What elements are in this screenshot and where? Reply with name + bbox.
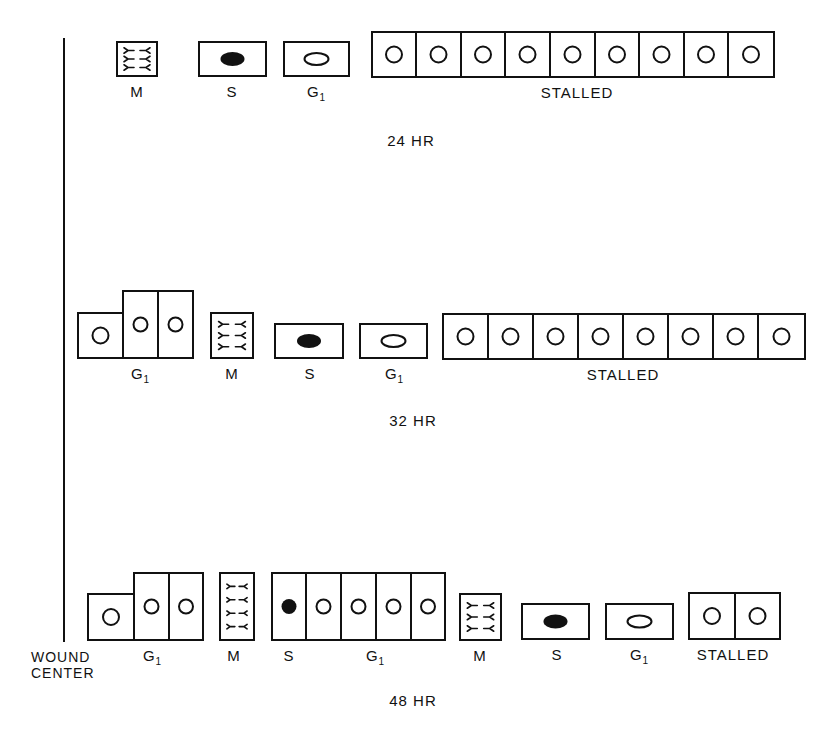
phase-label: S [551,647,562,663]
cell-round [88,594,134,640]
cell-round [595,32,639,77]
phase-label: S [304,366,315,382]
cell-mitosis-horizontal [117,42,157,76]
cell-round [713,314,758,359]
cell-round-small [411,573,445,640]
phase-label: S [283,648,294,664]
cell-round-small [134,573,169,640]
wound-label-line1: WOUND [31,649,95,665]
phase-label: G1 [630,647,648,669]
cell-round [416,32,461,77]
phase-label-subscript: 1 [144,374,150,385]
cell-round-small [376,573,411,640]
cell-round [461,32,505,77]
wound-center-label: WOUND CENTER [31,649,95,681]
cell-round [505,32,550,77]
cell-round [735,593,780,639]
cell-round [684,32,728,77]
phase-label: STALLED [587,367,660,383]
time-point-label: 48 HR [389,692,437,709]
cell-round [488,314,533,359]
cell-round [758,314,805,359]
cell-round [578,314,623,359]
dna-synthesis-nucleus-icon [297,334,321,348]
cell-mitosis-horizontal [211,313,253,358]
phase-label-subscript: 1 [320,92,326,103]
cell-g1-oval [360,324,427,358]
cell-round [550,32,595,77]
cell-cycle-diagram: MSG1STALLED24 HRG1MSG1STALLED32 HRG1MSG1… [0,0,833,743]
cell-round [639,32,684,77]
cell-round-small [306,573,341,640]
cell-round-small [169,573,203,640]
diagram-canvas [0,0,833,743]
cell-mitosis-horizontal [460,594,501,640]
dna-synthesis-nucleus-icon [221,52,245,66]
cell-g1-oval [284,42,349,76]
time-point-label: 32 HR [389,412,437,429]
wound-label-line2: CENTER [31,665,95,681]
cell-round-small [123,291,158,358]
phase-label: M [225,366,239,382]
phase-label: S [226,84,237,100]
phase-label: STALLED [697,647,770,663]
phase-label: G1 [131,366,149,388]
phase-label-subscript: 1 [379,656,385,667]
phase-label: STALLED [541,85,614,101]
cell-round-small [341,573,376,640]
phase-label: G1 [366,648,384,670]
dna-synthesis-nucleus-icon [282,599,297,614]
phase-label: M [473,648,487,664]
cell-round [623,314,668,359]
phase-label: G1 [385,366,403,388]
phase-label: M [130,84,144,100]
dna-synthesis-nucleus-icon [544,615,568,629]
cell-round [668,314,713,359]
cell-round [372,32,416,77]
cell-mitosis-vertical [220,573,254,640]
cell-g1-oval [606,604,673,639]
cell-round [533,314,578,359]
phase-label-subscript: 1 [398,374,404,385]
cell-round [689,593,735,639]
phase-label-subscript: 1 [643,655,649,666]
cell-round [78,313,123,358]
phase-label: M [227,648,241,664]
cell-round-small [158,291,193,358]
cell-round [728,32,774,77]
phase-label: G1 [307,84,325,106]
phase-label-subscript: 1 [156,656,162,667]
phase-label: G1 [143,648,161,670]
time-point-label: 24 HR [387,132,435,149]
cell-round [443,314,488,359]
